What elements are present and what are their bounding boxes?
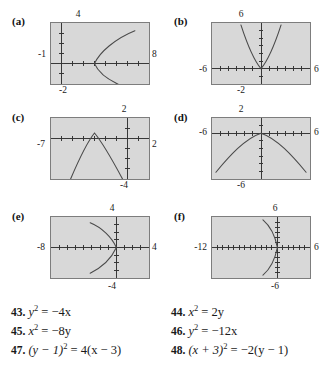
calculator-screen-c — [50, 117, 150, 180]
calculator-screen-f — [211, 216, 311, 279]
axis-label-d-right: 6 — [314, 128, 328, 138]
axis-label-e-top: 4 — [110, 204, 115, 214]
axis-label-e-bottom: -4 — [108, 282, 116, 292]
axis-label-a-left: -1 — [31, 50, 46, 60]
graph-svg-f — [212, 217, 310, 278]
graph-panel-c: (c) 2 -7 2 -4 — [0, 95, 164, 190]
axis-label-f-top: 6 — [273, 204, 278, 214]
axis-label-b-left: -6 — [190, 65, 207, 75]
exercise-number-46: 46. — [171, 325, 185, 337]
exercise-column-left: 43.y2 = −4x 45.x2 = −8y 47.(y − 1)2 = 4(… — [11, 303, 171, 360]
graph-panel-e: (e) 4 -8 4 -4 — [0, 190, 164, 290]
figure-page: (a) 4 -1 8 -2 — [0, 0, 329, 372]
calculator-screen-d — [211, 117, 311, 180]
axis-label-b-right: 6 — [314, 65, 328, 75]
exercise-number-43: 43. — [11, 306, 25, 318]
axis-label-c-top: 2 — [122, 105, 127, 115]
panel-label-a: (a) — [12, 15, 25, 27]
exercise-item-43: 43.y2 = −4x — [11, 303, 171, 322]
exercise-item-47: 47.(y − 1)2 = 4(x − 3) — [11, 341, 171, 360]
exercise-equation-46: y2 = −12x — [188, 324, 237, 338]
exercise-list: 43.y2 = −4x 45.x2 = −8y 47.(y − 1)2 = 4(… — [0, 303, 329, 372]
graph-svg-d — [212, 118, 310, 179]
axis-label-d-left: -6 — [190, 128, 207, 138]
graph-svg-b — [212, 23, 310, 84]
axis-label-c-left: -7 — [28, 140, 45, 150]
exercise-equation-43: y2 = −4x — [28, 305, 71, 319]
exercise-number-47: 47. — [11, 344, 25, 356]
exercise-item-48: 48.(x + 3)2 = −2(y − 1) — [171, 341, 329, 360]
axis-label-e-left: -8 — [28, 243, 45, 253]
exercise-item-45: 45.x2 = −8y — [11, 322, 171, 341]
graph-svg-a — [51, 23, 149, 84]
panel-label-d: (d) — [174, 111, 187, 123]
exercise-number-48: 48. — [171, 344, 185, 356]
calculator-screen-a — [50, 22, 150, 85]
axis-label-f-bottom: -6 — [271, 282, 279, 292]
exercise-number-45: 45. — [11, 325, 25, 337]
axis-label-b-top: 6 — [239, 10, 244, 20]
exercise-column-right: 44.x2 = 2y 46.y2 = −12x 48.(x + 3)2 = −2… — [171, 303, 329, 360]
graph-panel-b: (b) 6 -6 6 -2 — [164, 0, 329, 95]
calculator-screen-e — [50, 216, 150, 279]
panel-label-b: (b) — [174, 15, 187, 27]
axis-label-d-top: 2 — [239, 105, 244, 115]
exercise-equation-44: x2 = 2y — [188, 305, 224, 319]
exercise-item-46: 46.y2 = −12x — [171, 322, 329, 341]
exercise-equation-48: (x + 3)2 = −2(y − 1) — [188, 343, 288, 357]
panel-label-c: (c) — [12, 111, 24, 123]
axis-label-f-right: 6 — [314, 243, 328, 253]
axis-label-a-top: 4 — [76, 10, 81, 20]
panel-label-e: (e) — [12, 210, 24, 222]
exercise-item-44: 44.x2 = 2y — [171, 303, 329, 322]
graph-panel-f: (f) 6 -12 6 -6 — [164, 190, 329, 290]
exercise-equation-45: x2 = −8y — [28, 324, 71, 338]
graph-panel-a: (a) 4 -1 8 -2 — [0, 0, 164, 95]
axis-label-f-left: -12 — [183, 243, 207, 253]
graph-panel-d: (d) 2 -6 6 -6 — [164, 95, 329, 190]
exercise-number-44: 44. — [171, 306, 185, 318]
graph-svg-c — [51, 118, 149, 179]
calculator-screen-b — [211, 22, 311, 85]
exercise-equation-47: (y − 1)2 = 4(x − 3) — [28, 343, 121, 357]
panel-label-f: (f) — [174, 210, 185, 222]
graph-svg-e — [51, 217, 149, 278]
